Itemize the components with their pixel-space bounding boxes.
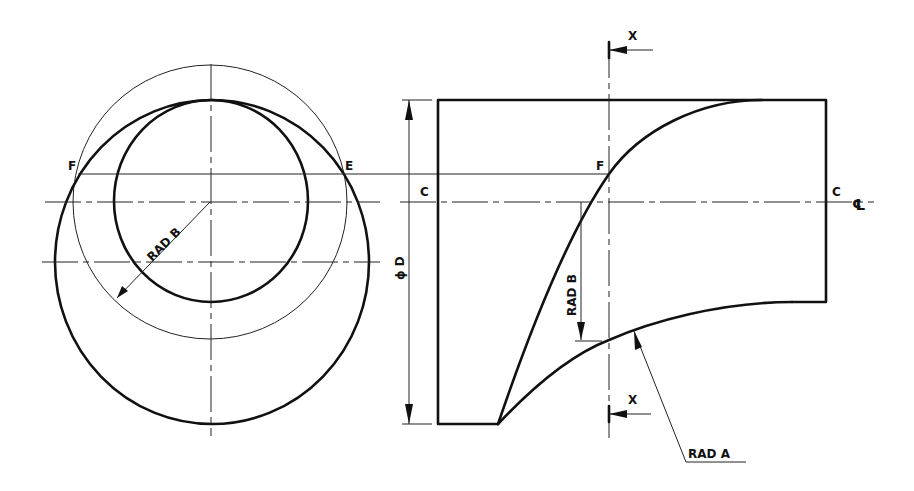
- technical-drawing: RAD B F E X X ϕ D RA: [0, 0, 914, 491]
- dia-arrow-top: [405, 100, 413, 120]
- rad-a-arrow: [634, 331, 642, 350]
- point-e-label: E: [345, 159, 353, 173]
- section-arrow-top-head: [609, 46, 627, 54]
- c-label-left: C: [420, 185, 429, 199]
- section-label-bottom: X: [628, 393, 638, 407]
- point-f-label-right: F: [596, 159, 604, 173]
- rad-a-label: RAD A: [688, 447, 731, 461]
- right-view: X X ϕ D RAD B RAD A C C F ℄: [393, 29, 874, 462]
- intersection-curve: [498, 100, 762, 424]
- centerline-symbol: ℄: [852, 196, 865, 214]
- rad-b-arrow: [577, 322, 585, 340]
- c-label-right: C: [832, 185, 841, 199]
- left-view: RAD B F E: [42, 64, 609, 436]
- point-f-label-left: F: [68, 159, 76, 173]
- diameter-label: ϕ D: [393, 256, 407, 280]
- section-arrow-bottom-head: [609, 410, 627, 418]
- rad-a-leader: [634, 331, 686, 462]
- rad-a-curve: [498, 302, 792, 424]
- rad-b-label-right: RAD B: [565, 274, 579, 316]
- section-label-top: X: [628, 29, 638, 43]
- dia-arrow-bottom: [405, 404, 413, 424]
- rad-b-label-left: RAD B: [144, 225, 183, 264]
